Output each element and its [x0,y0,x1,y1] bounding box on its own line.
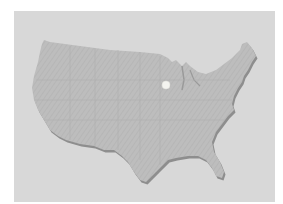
us-land [32,40,256,182]
us-map [0,0,283,204]
location-marker-icon[interactable] [162,81,170,89]
